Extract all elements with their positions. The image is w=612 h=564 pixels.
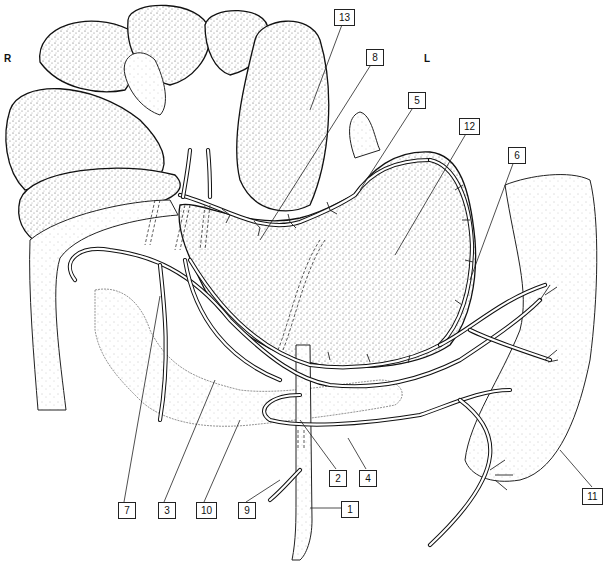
callout-3: 3 [158, 502, 176, 519]
callout-12: 12 [459, 118, 480, 135]
stomach [179, 112, 476, 368]
callout-7: 7 [118, 502, 136, 519]
orientation-left-label: L [424, 53, 430, 64]
callout-8: 8 [366, 49, 384, 66]
callout-6: 6 [508, 147, 526, 164]
fundus-appendage [350, 112, 380, 158]
callout-13: 13 [334, 9, 355, 26]
callout-9: 9 [238, 502, 256, 519]
spleen [465, 175, 597, 482]
orientation-right-label: R [4, 53, 11, 64]
callout-2: 2 [329, 470, 347, 487]
callout-10: 10 [196, 502, 217, 519]
anatomy-illustration [0, 0, 612, 564]
callout-5: 5 [408, 92, 426, 109]
callout-11: 11 [582, 488, 603, 505]
callout-1: 1 [341, 501, 359, 518]
callout-4: 4 [359, 470, 377, 487]
